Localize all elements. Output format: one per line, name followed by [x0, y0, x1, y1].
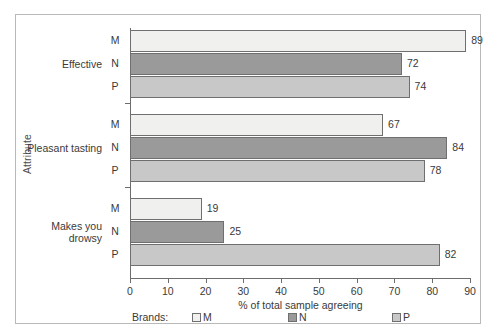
brand-letter-m: M — [106, 202, 124, 214]
legend-swatch-p — [392, 313, 401, 322]
x-axis-tick — [168, 278, 169, 283]
bar-makes-you-drowsy-p — [130, 244, 440, 266]
x-axis-title: % of total sample agreeing — [130, 299, 471, 311]
bar-row: 84 — [130, 137, 470, 159]
x-axis-tick — [281, 278, 282, 283]
x-axis-tick-label: 50 — [304, 285, 334, 297]
bar-makes-you-drowsy-n — [130, 221, 224, 243]
bar-effective-n — [130, 53, 402, 75]
x-axis-tick-label: 80 — [417, 285, 447, 297]
legend-item-m: M — [192, 311, 212, 323]
x-axis-tick — [319, 278, 320, 283]
legend: Brands: MNP — [130, 311, 471, 325]
bar-pleasant-tasting-m — [130, 114, 383, 136]
bar-pleasant-tasting-p — [130, 160, 425, 182]
legend-item-n: N — [288, 311, 307, 323]
x-axis-tick — [470, 278, 471, 283]
y-axis-title: Attribute — [21, 109, 33, 199]
x-axis-tick-label: 70 — [379, 285, 409, 297]
bar-effective-p — [130, 76, 410, 98]
x-axis-tick-label: 0 — [115, 285, 145, 297]
x-axis-tick-label: 20 — [191, 285, 221, 297]
brand-letter-n: N — [106, 225, 124, 237]
bar-row: 19 — [130, 198, 470, 220]
legend-swatch-m — [192, 313, 201, 322]
legend-title: Brands: — [132, 311, 168, 323]
x-axis-tick — [357, 278, 358, 283]
group-label-pleasant-tasting: Pleasant tasting — [2, 142, 102, 154]
bar-value-label: 19 — [207, 202, 219, 214]
group-label-line: Pleasant tasting — [2, 142, 102, 154]
legend-label: P — [403, 311, 410, 323]
x-axis-tick — [394, 278, 395, 283]
legend-label: N — [299, 311, 307, 323]
x-axis-tick-label: 30 — [228, 285, 258, 297]
x-axis-tick-label: 90 — [455, 285, 485, 297]
bar-row: 82 — [130, 244, 470, 266]
bar-value-label: 84 — [452, 141, 464, 153]
bar-row: 67 — [130, 114, 470, 136]
group-label-makes-you-drowsy: Makes youdrowsy — [2, 220, 102, 244]
x-axis-tick — [130, 278, 131, 283]
brand-letter-p: P — [106, 248, 124, 260]
group-label-line: Effective — [2, 58, 102, 70]
bar-value-label: 67 — [388, 118, 400, 130]
x-axis-tick — [206, 278, 207, 283]
y-axis-group-tick — [125, 103, 130, 104]
bar-pleasant-tasting-n — [130, 137, 447, 159]
bar-row: 74 — [130, 76, 470, 98]
legend-label: M — [203, 311, 212, 323]
group-label-line: Makes you — [2, 220, 102, 232]
group-label-line: drowsy — [2, 232, 102, 244]
y-axis-group-tick — [125, 187, 130, 188]
bar-row: 89 — [130, 30, 470, 52]
group-label-effective: Effective — [2, 58, 102, 70]
bar-value-label: 25 — [229, 225, 241, 237]
brand-letter-n: N — [106, 141, 124, 153]
bar-row: 78 — [130, 160, 470, 182]
x-axis-tick-label: 10 — [153, 285, 183, 297]
legend-swatch-n — [288, 313, 297, 322]
bar-value-label: 72 — [407, 57, 419, 69]
bar-row: 25 — [130, 221, 470, 243]
x-axis-tick — [432, 278, 433, 283]
x-axis-tick-label: 40 — [266, 285, 296, 297]
brand-letter-m: M — [106, 34, 124, 46]
x-axis-tick-label: 60 — [342, 285, 372, 297]
bar-chart: Attribute 897274678478192582 MNPEffectiv… — [0, 0, 497, 336]
legend-item-p: P — [392, 311, 410, 323]
brand-letter-m: M — [106, 118, 124, 130]
bar-value-label: 82 — [445, 248, 457, 260]
brand-letter-p: P — [106, 80, 124, 92]
brand-letter-p: P — [106, 164, 124, 176]
bar-value-label: 78 — [430, 164, 442, 176]
brand-letter-n: N — [106, 57, 124, 69]
x-axis-tick — [243, 278, 244, 283]
bar-makes-you-drowsy-m — [130, 198, 202, 220]
bar-row: 72 — [130, 53, 470, 75]
bar-value-label: 74 — [415, 80, 427, 92]
x-axis-line — [130, 278, 471, 279]
bar-value-label: 89 — [471, 34, 483, 46]
bar-effective-m — [130, 30, 466, 52]
